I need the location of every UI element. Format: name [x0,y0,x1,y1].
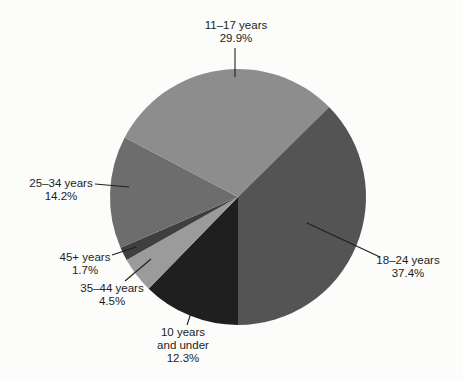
slice-label-a11-17: 11–17 years29.9% [205,19,268,77]
slice-label-text: 25–34 years [29,177,93,189]
slice-label-text: 11–17 years [205,19,268,31]
slice-label-text: and under [157,339,209,351]
slice-value-text: 12.3% [167,352,200,364]
slice-label-text: 45+ years [60,251,111,263]
slice-value-text: 1.7% [72,264,98,276]
pie-chart-figure: 10 yearsand under12.3%35–44 years4.5%45+… [0,0,463,380]
slice-label-text: 35–44 years [80,282,144,294]
slice-value-text: 4.5% [99,295,125,307]
pie-chart: 10 yearsand under12.3%35–44 years4.5%45+… [0,0,463,380]
slice-value-text: 29.9% [220,32,253,44]
slice-label-text: 18–24 years [376,254,440,266]
slice-label-a45plus: 45+ years1.7% [60,247,136,276]
slice-value-text: 37.4% [392,267,425,279]
pie-slices [110,69,366,325]
slice-value-text: 14.2% [45,190,78,202]
slice-label-text: 10 years [161,326,205,338]
